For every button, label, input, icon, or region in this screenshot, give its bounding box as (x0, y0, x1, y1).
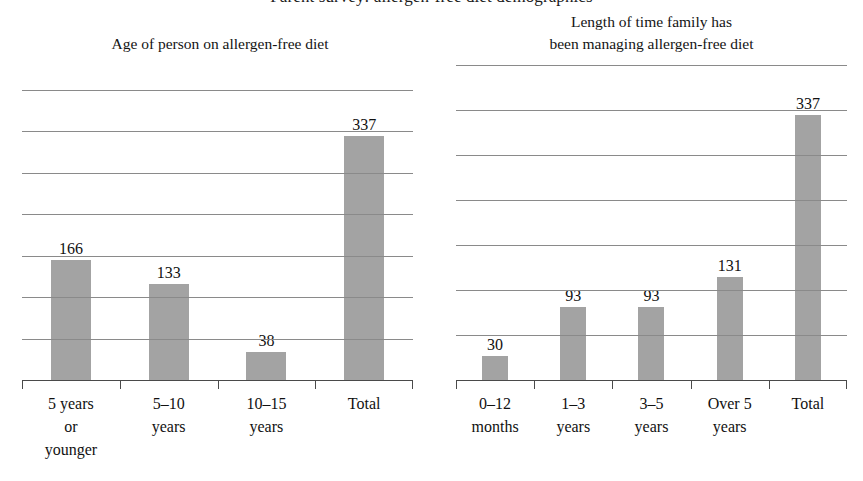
gridline (456, 65, 847, 66)
gridline (22, 131, 413, 132)
chart-title-age: Age of person on allergen-free diet (0, 33, 440, 55)
gridline (22, 256, 413, 257)
category-label: 0–12 months (456, 392, 534, 438)
axis-tick (612, 380, 613, 389)
axis-tick (412, 380, 413, 389)
category-label: 10–15 years (218, 392, 316, 438)
bar-slot: 166 (22, 90, 120, 380)
chart-panel-age: Age of person on allergen-free diet 1661… (0, 0, 440, 481)
axis-baseline (456, 380, 847, 381)
bar-value-label: 133 (157, 264, 181, 282)
chart-panel-duration: Length of time family has been managing … (440, 0, 863, 481)
bar[interactable] (149, 284, 189, 380)
axis-tick (691, 380, 692, 389)
bar-slot: 93 (612, 65, 690, 380)
gridline (456, 245, 847, 246)
figure-page: Parent survey: allergen-free diet demogr… (0, 0, 863, 481)
x-axis-duration (456, 380, 847, 390)
gridline (456, 335, 847, 336)
category-label: Total (315, 392, 413, 415)
axis-tick (315, 380, 316, 389)
bar-value-label: 38 (258, 332, 274, 350)
axis-tick (846, 380, 847, 389)
gridline (456, 200, 847, 201)
axis-tick (218, 380, 219, 389)
x-axis-age (22, 380, 413, 390)
category-labels-duration: 0–12 months1–3 years3–5 yearsOver 5 year… (456, 392, 847, 478)
bar[interactable] (482, 356, 508, 380)
axis-tick (120, 380, 121, 389)
bar-value-label: 30 (487, 336, 503, 354)
axis-tick (456, 380, 457, 389)
gridline (22, 297, 413, 298)
category-label: 3–5 years (612, 392, 690, 438)
bar[interactable] (638, 307, 664, 380)
gridline (456, 110, 847, 111)
gridline (22, 214, 413, 215)
category-label: Over 5 years (691, 392, 769, 438)
category-label: 1–3 years (534, 392, 612, 438)
bar-slot: 337 (769, 65, 847, 380)
bar-slot: 30 (456, 65, 534, 380)
axis-tick (22, 380, 23, 389)
chart-title-duration: Length of time family has been managing … (440, 11, 863, 55)
bar[interactable] (51, 260, 91, 380)
category-labels-age: 5 years or younger5–10 years10–15 yearsT… (22, 392, 413, 478)
bar-slot: 38 (218, 90, 316, 380)
bars-layer-duration: 309393131337 (456, 65, 847, 380)
category-label: 5–10 years (120, 392, 218, 438)
gridline (22, 339, 413, 340)
bar-slot: 133 (120, 90, 218, 380)
axis-tick (769, 380, 770, 389)
plot-area-duration: 309393131337 (456, 65, 847, 380)
bar-slot: 93 (534, 65, 612, 380)
bar[interactable] (560, 307, 586, 380)
category-label: 5 years or younger (22, 392, 120, 461)
bar-slot: 131 (691, 65, 769, 380)
axis-tick (534, 380, 535, 389)
gridline (456, 290, 847, 291)
gridline (22, 173, 413, 174)
gridline (22, 90, 413, 91)
bar[interactable] (717, 277, 743, 380)
bar-value-label: 131 (718, 257, 742, 275)
category-label: Total (769, 392, 847, 415)
gridline (456, 155, 847, 156)
bar-slot: 337 (315, 90, 413, 380)
plot-area-age: 16613338337 (22, 90, 413, 380)
bars-layer-age: 16613338337 (22, 90, 413, 380)
bar[interactable] (246, 352, 286, 380)
